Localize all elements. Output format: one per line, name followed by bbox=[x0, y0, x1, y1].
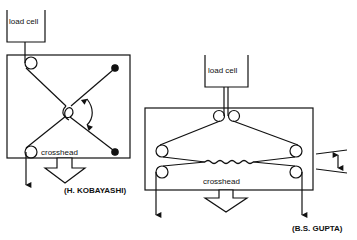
left-load-cell-box bbox=[7, 10, 45, 42]
right-angle-line-upper bbox=[316, 150, 347, 154]
diagram-canvas: load cell crosshead (H. KOBAYASHI) bbox=[0, 0, 357, 240]
right-strand-top-right bbox=[233, 121, 298, 145]
left-bottom-pulley bbox=[25, 146, 37, 158]
right-crosshead-direction-icon bbox=[205, 190, 247, 212]
left-frame bbox=[7, 55, 130, 158]
left-load-cell-label: load cell bbox=[9, 17, 39, 26]
left-strand-b bbox=[71, 70, 113, 106]
right-strand-mid-left-lower bbox=[163, 162, 205, 166]
right-diagram bbox=[145, 55, 347, 215]
left-diagram bbox=[7, 10, 130, 185]
right-lower-left-pulley bbox=[156, 166, 168, 178]
right-credit: (B.S. GUPTA) bbox=[292, 224, 343, 233]
left-top-pulley bbox=[25, 57, 37, 69]
right-upper-left-pulley bbox=[156, 145, 168, 157]
left-crosshead-direction-icon bbox=[45, 158, 85, 183]
right-upper-right-pulley bbox=[290, 145, 302, 157]
right-top-pulley-right bbox=[229, 111, 240, 122]
left-crosshead-label: crosshead bbox=[41, 148, 78, 157]
right-twisted-section bbox=[205, 161, 253, 164]
left-credit: (H. KOBAYASHI) bbox=[64, 186, 126, 195]
left-bottom-anchor-dot bbox=[112, 149, 118, 155]
right-angle-line-lower bbox=[316, 169, 347, 173]
left-strand-d bbox=[70, 117, 113, 150]
left-strand-a bbox=[26, 68, 66, 106]
right-strand-mid-right-lower bbox=[253, 162, 295, 166]
right-lower-right-pulley bbox=[290, 166, 302, 178]
left-rotation-arrow-icon bbox=[87, 99, 92, 125]
left-strand-c bbox=[26, 116, 66, 148]
right-strand-mid-right-upper bbox=[253, 157, 295, 162]
right-strand-mid-left-upper bbox=[163, 157, 205, 162]
right-load-cell-label: load cell bbox=[208, 66, 238, 75]
right-strand-top-left bbox=[160, 121, 220, 145]
right-crosshead-label: crosshead bbox=[203, 177, 240, 186]
right-top-pulley-left bbox=[214, 111, 225, 122]
